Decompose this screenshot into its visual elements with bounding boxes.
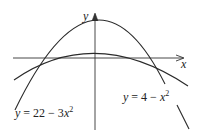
y-axis-label: y xyxy=(82,9,89,23)
tall-parabola-tail xyxy=(177,105,189,129)
x-axis xyxy=(13,55,184,61)
tall-parabola-label: y = 22 − 3x2 xyxy=(14,105,73,120)
y-axis xyxy=(92,13,98,130)
parabola-diagram: y x y = 22 − 3x2 y = 4 − x2 xyxy=(0,0,199,139)
x-axis-label: x xyxy=(180,57,187,71)
wide-parabola-label: y = 4 − x2 xyxy=(122,89,169,104)
